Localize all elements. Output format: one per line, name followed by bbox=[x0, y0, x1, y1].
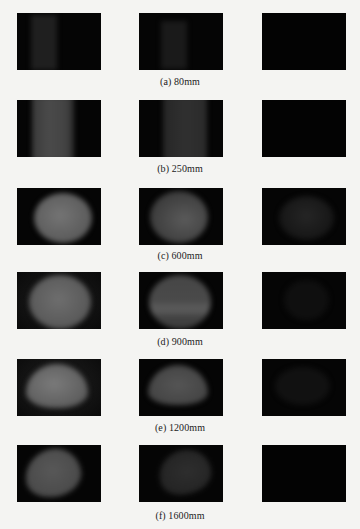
image-panel-a-2 bbox=[139, 13, 223, 70]
image-panel-f-1 bbox=[17, 445, 101, 502]
image-panel-d-3 bbox=[262, 272, 346, 329]
image-panel-c-3 bbox=[262, 188, 346, 245]
image-panel-e-2 bbox=[139, 359, 223, 416]
image-panel-a-1 bbox=[17, 13, 101, 70]
image-panel-f-3 bbox=[262, 445, 346, 502]
image-panel-b-3 bbox=[262, 100, 346, 157]
light-column bbox=[161, 21, 187, 69]
light-column bbox=[32, 100, 74, 157]
image-panel-f-2 bbox=[139, 445, 223, 502]
light-spot bbox=[155, 445, 215, 499]
image-panel-c-1 bbox=[17, 188, 101, 245]
light-spot bbox=[34, 193, 92, 243]
light-spot bbox=[275, 367, 330, 405]
image-panel-d-1 bbox=[17, 272, 101, 329]
light-spot bbox=[284, 280, 329, 320]
caption-a: (a) 80mm bbox=[0, 76, 360, 87]
light-column bbox=[163, 100, 207, 157]
image-panel-b-1 bbox=[17, 100, 101, 157]
caption-e: (e) 1200mm bbox=[0, 422, 360, 433]
image-panel-b-2 bbox=[139, 100, 223, 157]
light-spot bbox=[26, 364, 88, 408]
image-panel-a-3 bbox=[262, 13, 346, 70]
image-panel-e-3 bbox=[262, 359, 346, 416]
caption-c: (c) 600mm bbox=[0, 250, 360, 261]
caption-b: (b) 250mm bbox=[0, 163, 360, 174]
image-panel-c-2 bbox=[139, 188, 223, 245]
light-spot bbox=[149, 275, 211, 329]
caption-d: (d) 900mm bbox=[0, 336, 360, 347]
caption-f: (f) 1600mm bbox=[0, 510, 360, 521]
light-column bbox=[31, 15, 57, 70]
light-spot bbox=[148, 365, 208, 405]
image-panel-d-2 bbox=[139, 272, 223, 329]
light-spot bbox=[279, 196, 334, 240]
light-spot bbox=[150, 191, 208, 243]
light-spot bbox=[21, 445, 84, 501]
light-spot bbox=[29, 275, 91, 329]
image-panel-e-1 bbox=[17, 359, 101, 416]
